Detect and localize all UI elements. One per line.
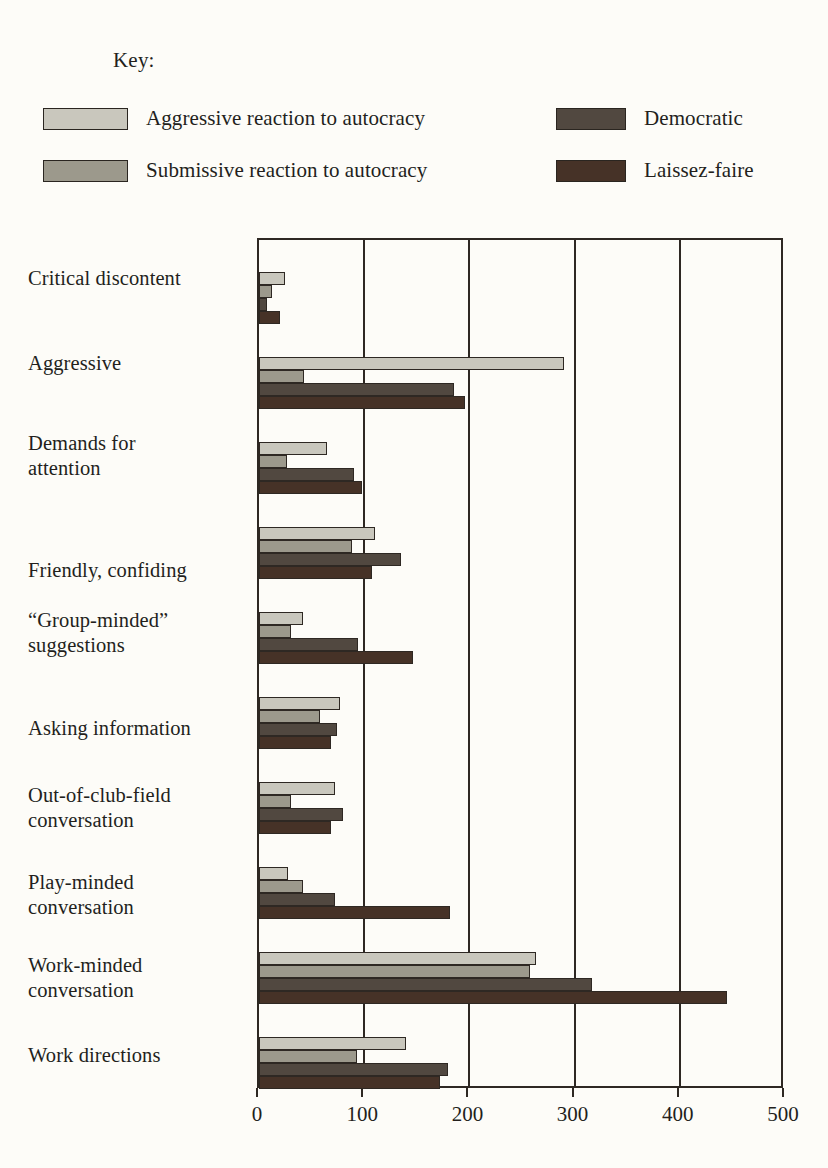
category-label-line: “Group-minded” <box>28 608 253 633</box>
category-label-line: suggestions <box>28 633 253 658</box>
category-label-line: attention <box>28 456 253 481</box>
key-title: Key: <box>113 48 155 73</box>
bar <box>259 978 592 991</box>
axis-tick-100 <box>361 1088 363 1097</box>
legend-item-aggressive-reaction: Aggressive reaction to autocracy <box>43 106 425 131</box>
category-label: Asking information <box>28 716 253 741</box>
bar <box>259 396 465 409</box>
bar <box>259 285 272 298</box>
bar <box>259 370 304 383</box>
bar <box>259 455 287 468</box>
legend-label-laissez-faire: Laissez-faire <box>644 158 754 183</box>
axis-tick-300 <box>572 1088 574 1097</box>
plot-area <box>257 238 783 1088</box>
legend-label-democratic: Democratic <box>644 106 743 131</box>
bar <box>259 1037 406 1050</box>
bar-group <box>259 357 785 409</box>
axis-tick-label-200: 200 <box>452 1102 484 1127</box>
bar-group <box>259 697 785 749</box>
bar <box>259 965 530 978</box>
bar <box>259 442 327 455</box>
bar <box>259 298 267 311</box>
bar-group <box>259 612 785 664</box>
axis-tick-label-100: 100 <box>346 1102 378 1127</box>
legend-swatch-aggressive-reaction <box>43 108 128 130</box>
bar <box>259 612 303 625</box>
bar <box>259 527 375 540</box>
category-label: “Group-minded”suggestions <box>28 608 253 658</box>
bar <box>259 795 291 808</box>
bar-group <box>259 527 785 579</box>
legend-label-aggressive-reaction: Aggressive reaction to autocracy <box>146 106 425 131</box>
bar-group <box>259 442 785 494</box>
bar <box>259 540 352 553</box>
category-label-line: Out-of-club-field <box>28 783 253 808</box>
bar <box>259 481 362 494</box>
legend-item-democratic: Democratic <box>556 106 743 131</box>
category-label-line: Aggressive <box>28 351 253 376</box>
bar <box>259 991 727 1004</box>
bar <box>259 736 331 749</box>
axis-tick-500 <box>782 1088 784 1097</box>
category-label: Out-of-club-fieldconversation <box>28 783 253 833</box>
bar <box>259 782 335 795</box>
axis-tick-200 <box>466 1088 468 1097</box>
bar <box>259 723 337 736</box>
bar-group <box>259 1037 785 1089</box>
bar-group <box>259 867 785 919</box>
bar <box>259 1076 440 1089</box>
bar <box>259 952 536 965</box>
axis-tick-label-500: 500 <box>767 1102 799 1127</box>
category-label: Aggressive <box>28 351 253 376</box>
bar <box>259 867 288 880</box>
bar <box>259 697 340 710</box>
bar <box>259 272 285 285</box>
bar-chart: Critical discontentAggressiveDemands for… <box>0 215 828 1168</box>
axis-tick-label-400: 400 <box>662 1102 694 1127</box>
bar-group <box>259 782 785 834</box>
legend-key: Key: Aggressive reaction to autocracy Su… <box>0 0 828 215</box>
bar <box>259 651 413 664</box>
legend-label-submissive-reaction: Submissive reaction to autocracy <box>146 158 427 183</box>
bar <box>259 468 354 481</box>
bar <box>259 906 450 919</box>
bar <box>259 311 280 324</box>
legend-item-submissive-reaction: Submissive reaction to autocracy <box>43 158 427 183</box>
category-label-line: Critical discontent <box>28 266 253 291</box>
category-label: Work directions <box>28 1043 253 1068</box>
axis-tick-label-0: 0 <box>252 1102 263 1127</box>
axis-tick-0 <box>256 1088 258 1097</box>
bar <box>259 1063 448 1076</box>
axis-tick-label-300: 300 <box>557 1102 589 1127</box>
category-label: Work-mindedconversation <box>28 953 253 1003</box>
bar <box>259 625 291 638</box>
category-label-line: Demands for <box>28 431 253 456</box>
bar <box>259 710 320 723</box>
bar <box>259 357 564 370</box>
category-label-line: conversation <box>28 978 253 1003</box>
category-label-line: Asking information <box>28 716 253 741</box>
bar <box>259 808 343 821</box>
category-label-line: Work-minded <box>28 953 253 978</box>
bar <box>259 821 331 834</box>
category-label-line: Work directions <box>28 1043 253 1068</box>
category-label: Demands forattention <box>28 431 253 481</box>
legend-swatch-democratic <box>556 108 626 130</box>
bar-group <box>259 272 785 324</box>
category-label-line: conversation <box>28 808 253 833</box>
category-label: Friendly, confiding <box>28 558 253 583</box>
bar <box>259 566 372 579</box>
legend-item-laissez-faire: Laissez-faire <box>556 158 754 183</box>
axis-tick-400 <box>677 1088 679 1097</box>
category-label-line: Friendly, confiding <box>28 558 253 583</box>
category-axis-labels: Critical discontentAggressiveDemands for… <box>28 238 253 1088</box>
bar <box>259 638 358 651</box>
category-label: Critical discontent <box>28 266 253 291</box>
bar <box>259 553 401 566</box>
legend-swatch-submissive-reaction <box>43 160 128 182</box>
bar-group <box>259 952 785 1004</box>
bar <box>259 383 454 396</box>
bar <box>259 893 335 906</box>
legend-swatch-laissez-faire <box>556 160 626 182</box>
bar <box>259 880 303 893</box>
